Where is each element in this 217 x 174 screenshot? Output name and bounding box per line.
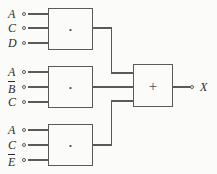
wire-g3-in-ebar xyxy=(28,159,49,161)
wire-g3-in-c xyxy=(28,144,49,146)
input-terminal-g3-a[interactable] xyxy=(22,128,26,132)
or-gate[interactable]: + xyxy=(133,64,173,107)
wire-g2-in-c xyxy=(28,101,49,103)
input-terminal-g1-c[interactable] xyxy=(22,26,26,30)
input-label-g2-c: C xyxy=(8,96,16,108)
wire-g1-out-h1 xyxy=(93,27,112,29)
input-terminal-g1-a[interactable] xyxy=(22,12,26,16)
input-label-g2-bbar: B xyxy=(8,81,15,95)
input-terminal-g2-a[interactable] xyxy=(22,70,26,74)
input-terminal-g3-ebar[interactable] xyxy=(22,158,26,162)
wire-or-out xyxy=(173,86,191,88)
output-terminal-x[interactable] xyxy=(190,85,194,89)
wire-g1-in-a xyxy=(28,13,49,15)
wire-g3-out-v xyxy=(111,100,113,146)
and-gate-1-symbol: · xyxy=(49,23,92,36)
and-gate-2-symbol: · xyxy=(49,81,92,94)
wire-g1-out-v xyxy=(111,27,113,73)
input-terminal-g2-c[interactable] xyxy=(22,100,26,104)
wire-g1-in-d xyxy=(28,42,49,44)
wire-g3-out-h1 xyxy=(93,144,112,146)
wire-g1-in-c xyxy=(28,27,49,29)
and-gate-3-symbol: · xyxy=(49,139,92,152)
and-gate-3[interactable]: · xyxy=(48,124,93,166)
wire-g2-in-bbar xyxy=(28,86,49,88)
output-label-x: X xyxy=(200,81,207,93)
wire-g2-in-a xyxy=(28,71,49,73)
input-label-g3-ebar: E xyxy=(8,154,15,168)
wire-g3-in-a xyxy=(28,129,49,131)
wire-g2-out xyxy=(93,86,134,88)
input-terminal-g2-bbar[interactable] xyxy=(22,85,26,89)
input-label-g1-d: D xyxy=(8,37,17,49)
or-gate-symbol: + xyxy=(134,78,172,93)
input-terminal-g3-c[interactable] xyxy=(22,143,26,147)
and-gate-2[interactable]: · xyxy=(48,66,93,108)
input-label-g3-a: A xyxy=(8,124,15,136)
input-label-g1-a: A xyxy=(8,8,15,20)
and-gate-1[interactable]: · xyxy=(48,8,93,50)
logic-circuit-diagram: A C D · A B C · A C E xyxy=(0,0,217,174)
input-label-g1-c: C xyxy=(8,22,16,34)
input-terminal-g1-d[interactable] xyxy=(22,41,26,45)
input-label-g3-c: C xyxy=(8,139,16,151)
input-label-g2-a: A xyxy=(8,66,15,78)
wire-g3-out-h2 xyxy=(111,100,134,102)
wire-g1-out-h2 xyxy=(111,72,134,74)
